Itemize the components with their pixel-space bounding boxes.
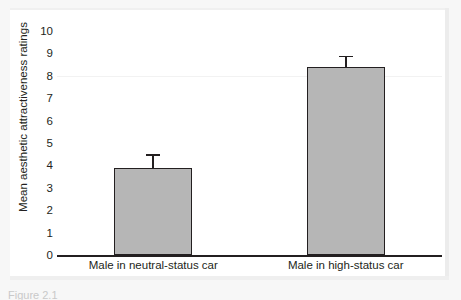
page-edge-right (445, 8, 449, 280)
y-axis-tick-label: 3 (27, 182, 53, 193)
page-edge-top (10, 8, 447, 10)
figure-root: Mean aesthetic attractiveness ratings 01… (0, 0, 461, 300)
plot-area (57, 31, 442, 255)
error-bar-stem (152, 154, 154, 167)
page-edge-bottom (10, 276, 449, 280)
bar (307, 67, 385, 255)
y-axis-tick-label: 8 (27, 70, 53, 81)
y-axis-tick-label: 2 (27, 205, 53, 216)
error-bar-cap (339, 56, 353, 58)
y-axis-tick-label: 6 (27, 115, 53, 126)
bar (114, 168, 192, 255)
error-bar-stem (345, 56, 347, 67)
y-axis-tick-label: 10 (27, 26, 53, 37)
x-axis-tick-label: Male in neutral-status car (43, 259, 263, 271)
y-axis-tick-label: 1 (27, 227, 53, 238)
x-axis-tick-label: Male in high-status car (236, 259, 456, 271)
y-axis-tick-label: 7 (27, 93, 53, 104)
error-bar-cap (146, 154, 160, 156)
figure-caption: Figure 2.1 (8, 289, 308, 300)
y-axis-tick-labels: 012345678910 (25, 31, 53, 255)
y-axis-tick-label: 9 (27, 48, 53, 59)
y-axis-tick-label: 5 (27, 138, 53, 149)
x-axis-line (57, 255, 442, 257)
y-axis-tick-label: 4 (27, 160, 53, 171)
